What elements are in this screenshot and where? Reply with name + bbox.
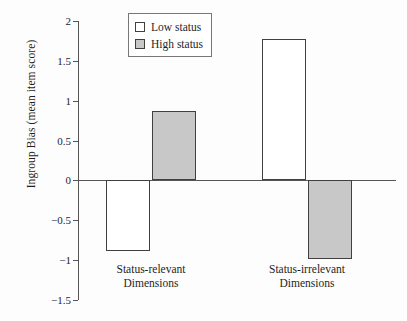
y-axis-title: Ingroup Bias (mean item score) (25, 0, 37, 229)
plot-area: 21.510.50−0.5−1−1.5 (78, 21, 396, 300)
legend-item-high-status: High status (135, 35, 203, 52)
y-tick-label: −1 (59, 254, 71, 266)
y-tick-label: 0.5 (57, 135, 71, 147)
y-tick-mark (73, 180, 78, 181)
y-tick-mark (73, 300, 78, 301)
status-irrelevant-low-status (262, 39, 306, 181)
y-tick-mark (73, 141, 78, 142)
y-tick-mark (73, 61, 78, 62)
y-tick-label: 0 (66, 174, 72, 186)
gray-square-icon (135, 39, 145, 49)
x-axis-label-line1: Status-relevant (76, 262, 226, 276)
y-tick-label: 1 (66, 95, 72, 107)
x-axis-label-status-irrelevant: Status-irrelevant Dimensions (232, 262, 382, 290)
legend: Low status High status (128, 13, 212, 57)
y-tick-label: −0.5 (51, 214, 71, 226)
y-tick-mark (73, 21, 78, 22)
y-tick-mark (73, 260, 78, 261)
bar-chart-figure: Ingroup Bias (mean item score) 21.510.50… (0, 0, 407, 321)
x-axis-label-line1: Status-irrelevant (232, 262, 382, 276)
x-axis-label-line2: Dimensions (232, 276, 382, 290)
y-tick-mark (73, 220, 78, 221)
y-tick-label: −1.5 (51, 294, 71, 306)
y-tick-label: 1.5 (57, 55, 71, 67)
y-tick-mark (73, 101, 78, 102)
y-tick-label: 2 (66, 15, 72, 27)
x-axis-label-status-relevant: Status-relevant Dimensions (76, 262, 226, 290)
legend-label-low-status: Low status (151, 21, 201, 33)
status-relevant-low-status (106, 180, 150, 251)
y-axis-line (78, 21, 79, 300)
legend-item-low-status: Low status (135, 18, 203, 35)
status-relevant-high-status (152, 111, 196, 180)
status-irrelevant-high-status (308, 180, 352, 258)
x-axis-label-line2: Dimensions (76, 276, 226, 290)
legend-label-high-status: High status (151, 38, 203, 50)
white-square-icon (135, 22, 145, 32)
